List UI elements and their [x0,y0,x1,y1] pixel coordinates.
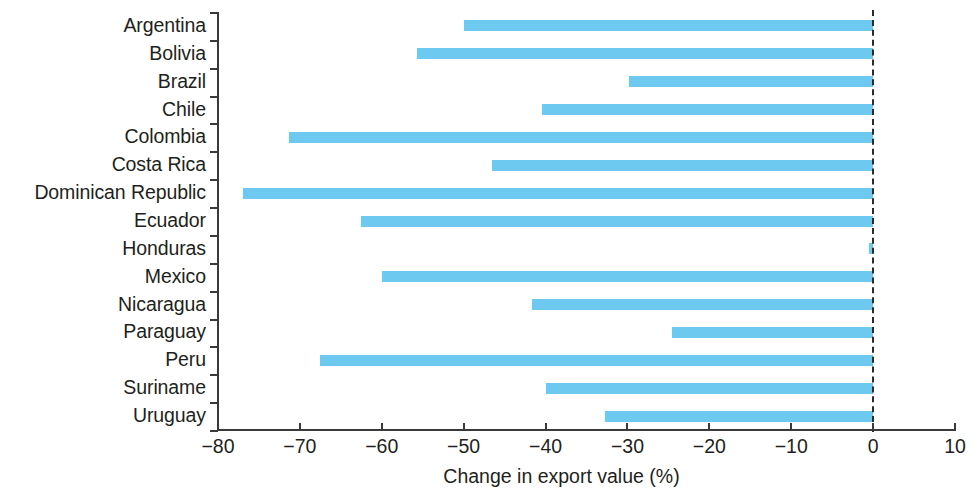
y-axis-tick [210,68,218,70]
y-axis-tick [210,207,218,209]
x-axis-tick-label: −70 [283,437,316,457]
x-axis-tick-label: −40 [529,437,562,457]
x-axis-tick-label: 10 [944,437,966,457]
y-axis-category-label: Paraguay [123,322,206,342]
bar [320,355,873,366]
bar [464,20,873,31]
y-axis-category-label: Colombia [124,127,206,147]
x-axis-tick-label: −10 [775,437,808,457]
y-axis-category-label: Suriname [123,378,206,398]
y-axis-category-label: Chile [162,100,206,120]
y-axis-category-label: Peru [165,350,206,370]
bar [532,299,873,310]
bar [243,188,874,199]
y-axis-tick [210,291,218,293]
y-axis-tick [210,402,218,404]
y-axis-tick [210,346,218,348]
chart-figure: ArgentinaBoliviaBrazilChileColombiaCosta… [0,0,973,497]
bar [629,76,873,87]
x-axis-tick-label: −60 [365,437,398,457]
bar [542,104,873,115]
y-axis-category-label: Costa Rica [112,155,206,175]
x-axis-tick-label: −20 [693,437,726,457]
x-axis-tick [463,423,465,431]
x-axis-tick [217,423,219,431]
x-axis-tick [626,423,628,431]
bar [361,216,873,227]
x-axis-tick-label: 0 [868,437,879,457]
y-axis-tick [210,374,218,376]
bar [672,327,873,338]
bar [492,160,874,171]
y-axis-category-label: Bolivia [149,44,206,64]
x-axis-title: Change in export value (%) [0,467,973,487]
y-axis-tick [210,179,218,181]
x-axis-tick [954,423,956,431]
y-axis-category-label: Argentina [123,16,206,36]
y-axis-category-label: Uruguay [133,406,206,426]
y-axis-tick [210,151,218,153]
y-axis-category-label: Nicaragua [118,295,206,315]
y-axis-tick [210,235,218,237]
bar [382,271,873,282]
x-axis-tick-label: −30 [611,437,644,457]
y-axis-labels: ArgentinaBoliviaBrazilChileColombiaCosta… [0,0,206,440]
zero-reference-line [872,10,874,432]
bar [546,383,874,394]
x-axis-tick [299,423,301,431]
x-axis-tick [545,423,547,431]
y-axis-category-label: Mexico [145,267,206,287]
y-axis-category-label: Dominican Republic [34,183,206,203]
x-axis-tick-label: −80 [201,437,234,457]
bar [417,48,873,59]
y-axis-tick [210,123,218,125]
bar [605,411,874,422]
bar [289,132,873,143]
x-axis-tick [872,423,874,431]
y-axis-tick [210,40,218,42]
x-axis-tick [790,423,792,431]
y-axis-tick [210,96,218,98]
y-axis-tick [210,319,218,321]
y-axis-category-label: Ecuador [134,211,206,231]
y-axis-category-label: Honduras [122,239,206,259]
y-axis-tick [210,12,218,14]
plot-area [218,12,955,430]
y-axis-category-label: Brazil [158,72,206,92]
x-axis-tick [708,423,710,431]
x-axis-tick [381,423,383,431]
y-axis-tick [210,263,218,265]
x-axis-tick-label: −50 [447,437,480,457]
